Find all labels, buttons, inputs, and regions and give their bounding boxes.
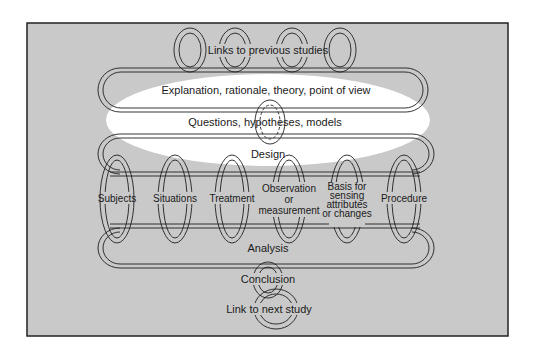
label-next-study: Link to next study: [226, 303, 312, 315]
label-observation-3: measurement: [258, 205, 319, 216]
label-basis-4: or changes: [322, 208, 371, 219]
research-chain-diagram: Links to previous studies Explanation, r…: [0, 0, 536, 356]
label-subjects: Subjects: [98, 193, 136, 204]
label-observation-2: or: [285, 194, 295, 205]
label-questions: Questions, hypotheses, models: [188, 116, 342, 128]
label-explanation: Explanation, rationale, theory, point of…: [162, 84, 371, 96]
diagram-frame: [27, 23, 508, 336]
label-analysis: Analysis: [248, 242, 289, 254]
label-conclusion: Conclusion: [241, 273, 295, 285]
label-design: Design: [251, 148, 285, 160]
label-previous-studies: Links to previous studies: [208, 44, 329, 56]
label-treatment: Treatment: [209, 193, 254, 204]
label-procedure: Procedure: [381, 193, 428, 204]
label-situations: Situations: [153, 193, 197, 204]
label-observation-1: Observation: [262, 183, 316, 194]
